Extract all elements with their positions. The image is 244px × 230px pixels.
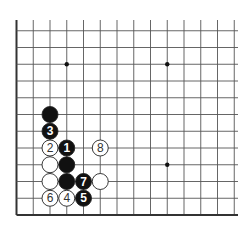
white-stone	[92, 174, 108, 190]
move-number-label: 4	[63, 191, 70, 205]
white-stone	[42, 157, 58, 173]
black-stone	[59, 157, 75, 173]
black-stone	[59, 174, 75, 190]
star-point	[65, 62, 69, 66]
move-number-label: 6	[47, 191, 54, 205]
move-number-label: 7	[80, 175, 87, 189]
star-point	[165, 62, 169, 66]
move-number-label: 3	[47, 124, 54, 138]
go-board: 32187645	[0, 0, 244, 230]
white-stone	[42, 174, 58, 190]
star-point	[165, 163, 169, 167]
move-number-label: 5	[80, 191, 87, 205]
black-stone	[42, 107, 58, 123]
move-number-label: 1	[63, 141, 70, 155]
move-number-label: 2	[47, 141, 54, 155]
move-number-label: 8	[97, 141, 104, 155]
